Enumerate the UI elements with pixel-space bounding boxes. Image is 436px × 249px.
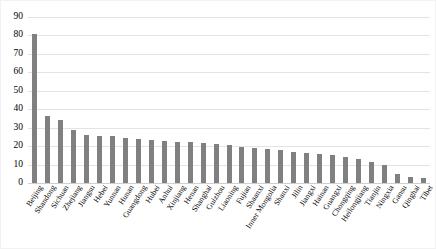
bar xyxy=(369,162,374,183)
bar xyxy=(304,153,309,183)
bar xyxy=(382,165,387,183)
bar-chart: 9080706050403020100 BeijingShandongSichu… xyxy=(0,0,436,249)
bar xyxy=(265,149,270,183)
bar xyxy=(330,155,335,183)
y-axis-tick-label: 60 xyxy=(14,68,24,78)
y-axis-tick-label: 50 xyxy=(14,86,24,96)
bar xyxy=(214,144,219,183)
bar xyxy=(58,120,63,183)
y-axis-tick-label: 10 xyxy=(14,160,24,170)
bar xyxy=(149,140,154,183)
bar xyxy=(395,174,400,183)
bar xyxy=(188,142,193,183)
bar xyxy=(421,178,426,183)
bar xyxy=(110,136,115,183)
y-axis-tick-label: 90 xyxy=(14,12,24,22)
bar xyxy=(291,152,296,183)
bar xyxy=(227,145,232,183)
bar xyxy=(45,116,50,183)
bar xyxy=(123,138,128,183)
bar xyxy=(97,136,102,183)
bar xyxy=(84,135,89,183)
y-axis-tick-label: 30 xyxy=(14,123,24,133)
y-axis-tick-label: 0 xyxy=(18,178,23,188)
bar xyxy=(162,141,167,183)
bars-layer xyxy=(28,17,430,183)
bar xyxy=(239,147,244,183)
bar xyxy=(175,142,180,184)
bar xyxy=(317,154,322,184)
x-axis: BeijingShandongSichuanZhejiangJiangsuHeb… xyxy=(28,184,430,249)
y-axis: 9080706050403020100 xyxy=(0,17,26,183)
bar xyxy=(252,148,257,183)
bar xyxy=(71,130,76,183)
bar xyxy=(278,150,283,183)
y-axis-tick-label: 20 xyxy=(14,141,24,151)
bar xyxy=(408,177,413,183)
bar xyxy=(136,139,141,183)
bar xyxy=(201,143,206,183)
y-axis-tick-label: 80 xyxy=(14,31,24,41)
bar xyxy=(32,34,37,183)
y-axis-tick-label: 70 xyxy=(14,49,24,59)
y-axis-tick-label: 40 xyxy=(14,104,24,114)
bar xyxy=(343,157,348,183)
bar xyxy=(356,159,361,183)
